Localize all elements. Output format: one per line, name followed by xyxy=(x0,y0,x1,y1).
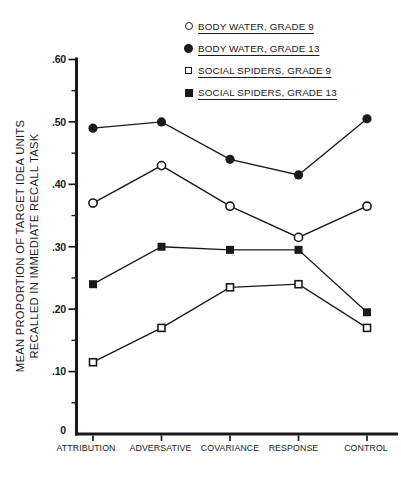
legend-item-label: SOCIAL SPIDERS, GRADE 9 xyxy=(198,65,331,76)
open-square-icon xyxy=(183,67,194,75)
y-tick-label: .20 xyxy=(52,303,66,315)
series-line-body-water-grade-13 xyxy=(93,119,367,175)
x-tick-label-adversative: ADVERSATIVE xyxy=(129,443,191,453)
legend: BODY WATER, GRADE 9BODY WATER, GRADE 13S… xyxy=(183,15,337,104)
series-line-social-spiders-grade-9 xyxy=(93,284,367,362)
y-tick-label: 0 xyxy=(60,424,66,436)
x-tick-label-response: RESPONSE xyxy=(269,443,319,453)
y-tick-label: .50 xyxy=(52,116,66,128)
open-square-marker-control xyxy=(364,324,371,331)
open-circle-marker-covariance xyxy=(226,202,234,210)
x-tick-label-attribution: ATTRIBUTION xyxy=(56,443,115,453)
legend-item-social-spiders-grade-9: SOCIAL SPIDERS, GRADE 9 xyxy=(183,59,337,81)
open-square-marker-covariance xyxy=(227,284,234,291)
filled-square-icon xyxy=(183,89,194,97)
filled-square-marker-response xyxy=(295,246,303,254)
y-tick-label: .10 xyxy=(52,365,66,377)
open-circle-marker-control xyxy=(363,202,371,210)
filled-square-marker-adversative xyxy=(158,243,166,251)
legend-item-label: BODY WATER, GRADE 9 xyxy=(198,21,314,32)
y-tick-label: .60 xyxy=(52,53,66,65)
open-circle-marker-response xyxy=(294,233,302,241)
filled-circle-marker-covariance xyxy=(225,155,234,164)
filled-circle-icon xyxy=(183,44,194,53)
legend-item-body-water-grade-13: BODY WATER, GRADE 13 xyxy=(183,37,337,59)
open-circle-icon xyxy=(183,22,194,30)
figure-canvas: 0.10.20.30.40.50.60ATTRIBUTIONADVERSATIV… xyxy=(0,0,401,478)
open-circle-marker-adversative xyxy=(157,162,165,170)
axes: 0.10.20.30.40.50.60ATTRIBUTIONADVERSATIV… xyxy=(52,53,398,452)
y-axis-title-line-2: RECALLED IN IMMEDIATE RECALL TASK xyxy=(28,133,40,358)
y-tick-label: .40 xyxy=(52,178,66,190)
y-tick-label: .30 xyxy=(52,241,66,253)
y-axis-title: MEAN PROPORTION OF TARGET IDEA UNITS REC… xyxy=(14,120,40,372)
legend-item-body-water-grade-9: BODY WATER, GRADE 9 xyxy=(183,15,337,37)
filled-circle-marker-control xyxy=(362,114,371,123)
legend-item-label: SOCIAL SPIDERS, GRADE 13 xyxy=(198,87,337,98)
filled-circle-marker-adversative xyxy=(157,117,166,126)
filled-square-marker-covariance xyxy=(226,246,234,254)
x-tick-label-control: CONTROL xyxy=(344,443,388,453)
filled-circle-marker-attribution xyxy=(88,124,97,133)
legend-item-label: BODY WATER, GRADE 13 xyxy=(198,43,320,54)
open-circle-marker-attribution xyxy=(89,199,97,207)
open-square-marker-attribution xyxy=(90,359,97,366)
legend-item-social-spiders-grade-13: SOCIAL SPIDERS, GRADE 13 xyxy=(183,82,337,104)
open-square-marker-response xyxy=(295,281,302,288)
open-square-marker-adversative xyxy=(158,324,165,331)
y-axis-title-line-1: MEAN PROPORTION OF TARGET IDEA UNITS xyxy=(14,120,26,372)
filled-square-marker-attribution xyxy=(89,280,97,288)
filled-square-marker-control xyxy=(363,308,371,316)
series-markers xyxy=(88,114,371,366)
filled-circle-marker-response xyxy=(294,170,303,179)
x-tick-label-covariance: COVARIANCE xyxy=(201,443,260,453)
